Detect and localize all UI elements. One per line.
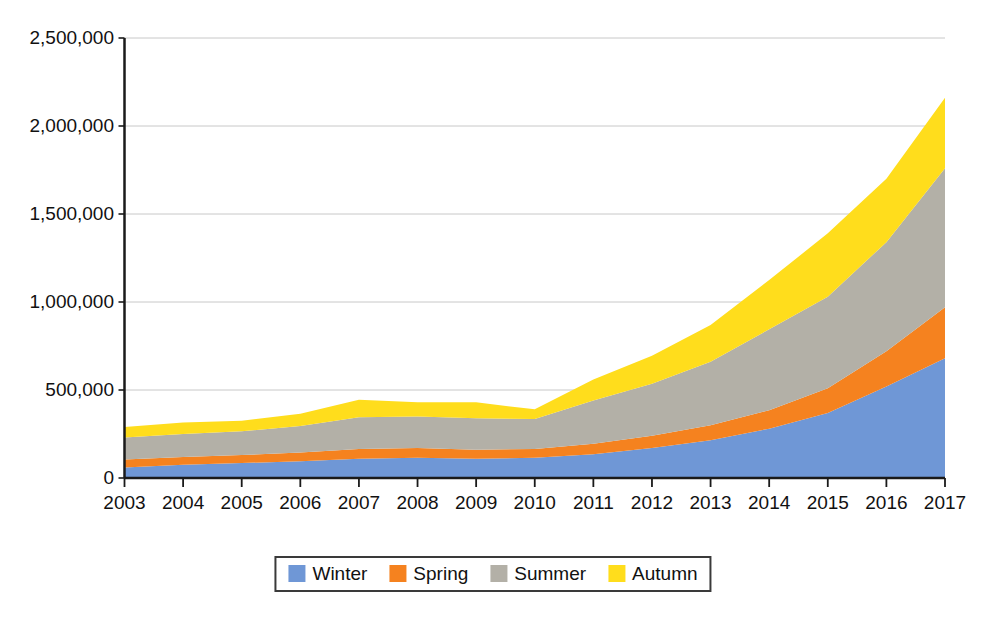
x-axis-tick-labels: 2003200420052006200720082009201020112012…: [0, 492, 986, 526]
legend-label: Summer: [514, 563, 586, 584]
legend-item-summer[interactable]: Summer: [490, 563, 586, 584]
x-tick-label: 2004: [162, 492, 204, 514]
legend-swatch-icon: [288, 565, 305, 582]
legend-item-winter[interactable]: Winter: [288, 563, 367, 584]
x-tick-marks: [125, 478, 946, 487]
x-tick-label: 2014: [748, 492, 790, 514]
legend-label: Winter: [312, 563, 367, 584]
stacked-area-plot: [0, 0, 986, 540]
legend-label: Spring: [413, 563, 468, 584]
x-tick-label: 2009: [455, 492, 497, 514]
y-tick-label: 2,500,000: [29, 28, 114, 47]
x-tick-label: 2003: [103, 492, 145, 514]
x-tick-label: 2015: [807, 492, 849, 514]
x-tick-label: 2011: [573, 492, 614, 514]
y-axis-tick-labels: 0500,0001,000,0001,500,0002,000,0002,500…: [0, 0, 114, 540]
chart-root: 0500,0001,000,0001,500,0002,000,0002,500…: [0, 0, 986, 617]
x-tick-label: 2008: [396, 492, 438, 514]
legend-swatch-icon: [389, 565, 406, 582]
x-tick-label: 2005: [221, 492, 263, 514]
x-tick-label: 2012: [631, 492, 673, 514]
x-tick-label: 2013: [689, 492, 731, 514]
x-tick-label: 2010: [514, 492, 556, 514]
y-tick-label: 1,000,000: [29, 292, 114, 311]
x-tick-label: 2017: [924, 492, 966, 514]
legend-label: Autumn: [632, 563, 697, 584]
y-tick-label: 0: [103, 468, 114, 487]
x-tick-label: 2016: [865, 492, 907, 514]
legend-item-spring[interactable]: Spring: [389, 563, 468, 584]
legend-swatch-icon: [490, 565, 507, 582]
y-tick-label: 500,000: [45, 380, 114, 399]
legend-item-autumn[interactable]: Autumn: [608, 563, 697, 584]
chart-legend: WinterSpringSummerAutumn: [274, 556, 711, 592]
x-tick-label: 2006: [279, 492, 321, 514]
area-series-group: [125, 98, 946, 478]
x-tick-label: 2007: [338, 492, 380, 514]
y-tick-label: 2,000,000: [29, 116, 114, 135]
y-tick-label: 1,500,000: [29, 204, 114, 223]
plot-area: 0500,0001,000,0001,500,0002,000,0002,500…: [0, 0, 986, 540]
legend-swatch-icon: [608, 565, 625, 582]
